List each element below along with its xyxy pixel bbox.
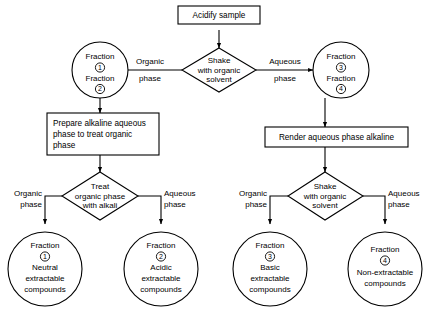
edge-label-aqueous-left-line1: Aqueous — [164, 189, 196, 198]
connector-shake-bottom-to-fraction3 — [270, 196, 288, 224]
node-fraction-1-line2: Neutral — [32, 263, 58, 272]
node-fraction-2-line1: Fraction — [147, 241, 176, 250]
flowchart-page: Acidify sample Shake with organic solven… — [0, 0, 440, 314]
node-shake-top-line3: solvent — [206, 75, 232, 84]
edge-label-organic-top-line2: phase — [139, 74, 161, 83]
node-shake-bottom-line1: Shake — [314, 182, 337, 191]
edge-label-organic-left-line2: phase — [20, 200, 42, 209]
node-fraction-34-num1: 3 — [339, 64, 343, 71]
edge-label-organic-left-line1: Organic — [14, 189, 42, 198]
edge-label-aqueous-top-line1: Aqueous — [269, 57, 301, 66]
node-fraction-34-line1: Fraction — [327, 52, 356, 61]
node-fraction-1-num: 1 — [43, 253, 47, 260]
node-fraction-1-line4: compounds — [24, 285, 65, 294]
node-prepare-alkaline-line1: Prepare alkaline aqueous — [53, 119, 146, 128]
node-fraction-3-num: 3 — [268, 253, 272, 260]
node-acidify-sample-label: Acidify sample — [193, 11, 246, 20]
edge-label-aqueous-right-line2: phase — [388, 200, 410, 209]
node-fraction-2-line2: Acidic — [150, 263, 171, 272]
node-render-alkaline-label: Render aqueous phase alkaline — [279, 133, 395, 142]
node-shake-top-line2: with organic — [197, 66, 241, 75]
node-fraction-34-line2: Fraction — [327, 74, 356, 83]
connector-treat-to-fraction1 — [45, 196, 62, 224]
node-treat-alkali-line1: Treat — [91, 182, 110, 191]
node-fraction-2-num: 2 — [159, 253, 163, 260]
node-fraction-4-line1: Fraction — [371, 245, 400, 254]
node-shake-top-line1: Shake — [208, 56, 231, 65]
node-fraction-4-num: 4 — [383, 257, 387, 264]
node-fraction-1-line3: extractable — [25, 274, 65, 283]
node-fraction-12-num2: 2 — [98, 85, 102, 92]
node-treat-alkali-line2: organic phase — [75, 192, 126, 201]
node-fraction-4-line3: compounds — [364, 279, 405, 288]
node-prepare-alkaline-line3: phase — [53, 141, 76, 150]
node-shake-bottom-line3: solvent — [312, 201, 338, 210]
node-fraction-2-line3: extractable — [141, 274, 181, 283]
connector-treat-to-fraction2 — [138, 196, 161, 224]
node-fraction-4-line2: Non-extractable — [357, 268, 414, 277]
connector-shake-bottom-to-fraction4 — [363, 196, 385, 224]
flowchart-canvas: Acidify sample Shake with organic solven… — [0, 0, 440, 314]
edge-label-aqueous-left-line2: phase — [164, 200, 186, 209]
node-fraction-2-line4: compounds — [140, 285, 181, 294]
node-fraction-34-num2: 4 — [339, 85, 343, 92]
node-fraction-12-num1: 1 — [98, 64, 102, 71]
edge-label-organic-right-line2: phase — [245, 200, 267, 209]
node-fraction-3-line2: Basic — [260, 263, 280, 272]
node-prepare-alkaline-line2: phase to treat organic — [53, 130, 132, 139]
node-fraction-1-line1: Fraction — [31, 241, 60, 250]
edge-label-organic-top-line1: Organic — [136, 57, 164, 66]
edge-label-aqueous-right-line1: Aqueous — [388, 189, 420, 198]
node-shake-bottom-line2: with organic — [303, 192, 347, 201]
node-fraction-12-line1: Fraction — [86, 52, 115, 61]
node-fraction-3-line1: Fraction — [256, 241, 285, 250]
edge-label-organic-right-line1: Organic — [239, 189, 267, 198]
node-fraction-12-line2: Fraction — [86, 74, 115, 83]
node-fraction-3-line4: compounds — [249, 285, 290, 294]
node-treat-alkali-line3: with alkali — [82, 201, 118, 210]
edge-label-aqueous-top-line2: phase — [274, 74, 296, 83]
node-fraction-3-line3: extractable — [250, 274, 290, 283]
